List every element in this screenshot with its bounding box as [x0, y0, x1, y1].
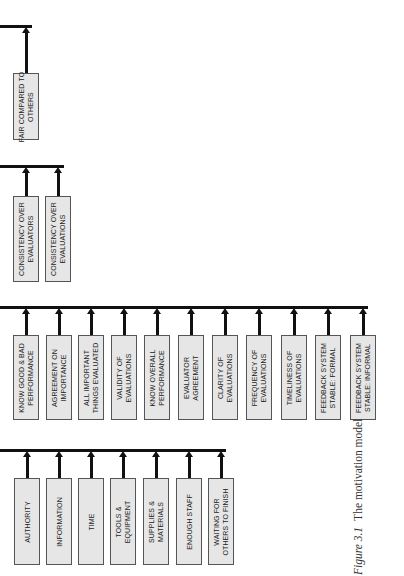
factor-box: EVALUATOR AGREEMENT: [178, 335, 204, 420]
factor-label: FREQUENCY OF EVALUATIONS: [250, 349, 268, 406]
arrowhead-icon: [22, 167, 30, 173]
arrowhead-icon: [185, 451, 193, 457]
arrow-stem: [327, 313, 330, 335]
factor-label: AUTHORITY: [23, 501, 32, 542]
factor-label: INFORMATION: [55, 497, 64, 547]
figure-label: Figure 3.1: [352, 527, 364, 575]
arrow-stem: [57, 172, 60, 196]
arrowhead-icon: [23, 451, 31, 457]
arrowhead-icon: [217, 451, 225, 457]
arrowhead-icon: [359, 308, 367, 314]
arrowhead-icon: [55, 308, 63, 314]
arrow-stem: [25, 172, 28, 196]
factor-label: VALIDITY OF EVALUATIONS: [115, 353, 133, 402]
figure-title: The motivation model: [352, 419, 364, 521]
arrow-stem: [25, 32, 28, 73]
arrow-stem: [190, 313, 193, 335]
factor-box: WAITING FOR OTHERS TO FINISH: [208, 478, 234, 565]
arrowhead-icon: [22, 308, 30, 314]
factor-label: AGREEMENT ON IMPORTANCE: [50, 349, 68, 407]
arrow-stem: [258, 313, 261, 335]
arrowhead-icon: [290, 308, 298, 314]
factor-box: AUTHORITY: [14, 478, 40, 565]
factor-box: ENOUGH STAFF: [176, 478, 202, 565]
arrow-stem: [123, 313, 126, 335]
factor-box: KNOW GOOD & BAD PERFORMANCE: [13, 335, 39, 420]
arrow-stem: [156, 313, 159, 335]
factor-label: EVALUATOR AGREEMENT: [182, 355, 200, 400]
arrowhead-icon: [152, 451, 160, 457]
arrowhead-icon: [119, 451, 127, 457]
arrowhead-icon: [255, 308, 263, 314]
factor-box: TIMELINESS OF EVALUATIONS: [281, 335, 307, 420]
arrow-stem: [90, 456, 93, 478]
arrowhead-icon: [221, 308, 229, 314]
arrowhead-icon: [87, 308, 95, 314]
factor-box: AGREEMENT ON IMPORTANCE: [46, 335, 72, 420]
arrowhead-icon: [87, 451, 95, 457]
arrowhead-icon: [54, 167, 62, 173]
factor-label: FEEDBACK SYSTEM STABLE: FORMAL: [319, 343, 337, 413]
factor-label: CONSISTENCY OVER EVALUATORS: [17, 202, 35, 276]
factor-box: TIME: [78, 478, 104, 565]
arrowhead-icon: [187, 308, 195, 314]
figure-caption: Figure 3.1The motivation model: [352, 419, 364, 575]
factor-box: KNOW OVERALL PERFORMANCE: [144, 335, 170, 420]
factor-box: FREQUENCY OF EVALUATIONS: [246, 335, 272, 420]
factor-box: CONSISTENCY OVER EVALUATIONS: [45, 196, 71, 282]
factor-label: WAITING FOR OTHERS TO FINISH: [212, 488, 230, 555]
factor-label: TIMELINESS OF EVALUATIONS: [285, 350, 303, 405]
factor-label: TOOLS & EQUIPMENT: [114, 500, 132, 543]
factor-label: CONSISTENCY OVER EVALUATIONS: [49, 202, 67, 276]
factor-box: SUPPLIES & MATERIALS: [143, 478, 169, 565]
arrowhead-icon: [120, 308, 128, 314]
factor-label: CLARITY OF EVALUATIONS: [216, 353, 234, 402]
arrowhead-icon: [324, 308, 332, 314]
factor-box: FEEDBACK SYSTEM STABLE: FORMAL: [315, 335, 341, 420]
factor-box: FEEDBACK SYSTEM STABLE: INFORMAL: [350, 335, 376, 420]
arrow-stem: [58, 456, 61, 478]
arrowhead-icon: [55, 451, 63, 457]
arrow-stem: [155, 456, 158, 478]
factor-label: ENOUGH STAFF: [185, 494, 194, 550]
factor-label: FAIR COMPARED TO OTHERS: [17, 71, 35, 141]
arrow-stem: [58, 313, 61, 335]
arrow-stem: [90, 313, 93, 335]
arrow-stem: [26, 456, 29, 478]
factor-box: INFORMATION: [46, 478, 72, 565]
arrowhead-icon: [22, 27, 30, 33]
factor-label: FEEDBACK SYSTEM STABLE: INFORMAL: [354, 343, 372, 413]
factor-box: VALIDITY OF EVALUATIONS: [111, 335, 137, 420]
factor-label: SUPPLIES & MATERIALS: [147, 501, 165, 543]
arrow-stem: [25, 313, 28, 335]
factor-box: TOOLS & EQUIPMENT: [110, 478, 136, 565]
factor-box: FAIR COMPARED TO OTHERS: [13, 73, 39, 140]
factor-label: TIME: [87, 513, 96, 530]
factor-label: KNOW GOOD & BAD PERFORMANCE: [17, 343, 35, 413]
arrow-stem: [220, 456, 223, 478]
arrow-stem: [122, 456, 125, 478]
factor-label: KNOW OVERALL PERFORMANCE: [148, 349, 166, 406]
factor-box: CONSISTENCY OVER EVALUATORS: [13, 196, 39, 282]
arrow-stem: [224, 313, 227, 335]
factor-box: CLARITY OF EVALUATIONS: [212, 335, 238, 420]
arrow-stem: [293, 313, 296, 335]
arrow-stem: [188, 456, 191, 478]
arrow-stem: [362, 313, 365, 335]
factor-label: ALL IMPORTANT THINGS EVALUATED: [82, 342, 100, 413]
factor-box: ALL IMPORTANT THINGS EVALUATED: [78, 335, 104, 420]
arrowhead-icon: [153, 308, 161, 314]
